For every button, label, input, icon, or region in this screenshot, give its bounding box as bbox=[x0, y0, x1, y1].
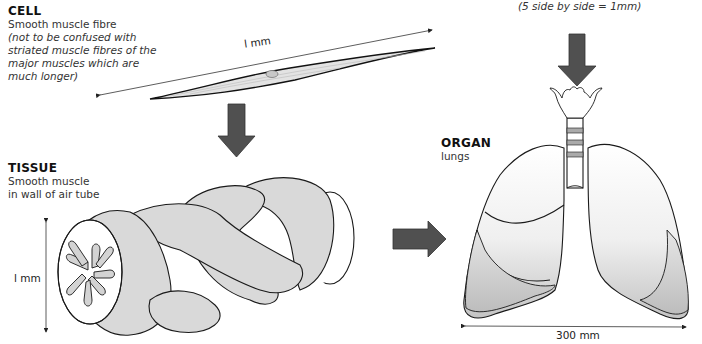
larynx bbox=[550, 87, 602, 118]
cell-note-line-3: major muscles which are bbox=[8, 57, 156, 70]
organ-heading: ORGAN bbox=[441, 137, 491, 150]
lungs-organ bbox=[464, 87, 689, 319]
air-tube-tissue bbox=[58, 178, 354, 336]
tissue-label-block: TISSUE Smooth muscle in wall of air tube bbox=[8, 162, 99, 201]
tissue-heading: TISSUE bbox=[8, 162, 99, 175]
organ-label-block: ORGAN lungs bbox=[441, 137, 491, 163]
arrow-down-to-organ bbox=[558, 34, 596, 86]
arrow-down-cell-to-tissue bbox=[218, 104, 255, 157]
cell-subtitle: Smooth muscle fibre bbox=[8, 18, 156, 31]
tissue-subtitle-line-1: Smooth muscle bbox=[8, 175, 99, 188]
arrow-right-tissue-to-organ bbox=[393, 221, 446, 257]
cell-label-block: CELL Smooth muscle fibre (not to be conf… bbox=[8, 5, 156, 83]
organ-scale-label: 300 mm bbox=[556, 329, 600, 341]
top-note: (5 side by side = 1mm) bbox=[518, 0, 641, 13]
cell-note-line-4: much longer) bbox=[8, 70, 156, 83]
organ-scale-line bbox=[465, 326, 686, 327]
organ-subtitle: lungs bbox=[441, 150, 491, 163]
cell-note-line-1: (not to be confused with bbox=[8, 31, 156, 44]
tissue-subtitle-line-2: in wall of air tube bbox=[8, 188, 99, 201]
trachea-ring bbox=[567, 140, 583, 145]
cell-heading: CELL bbox=[8, 5, 156, 18]
cell-note-line-2: striated muscle fibres of the bbox=[8, 44, 156, 57]
smooth-muscle-cell bbox=[150, 48, 435, 99]
trachea-ring bbox=[567, 128, 583, 133]
trachea-ring bbox=[567, 152, 583, 157]
cell-nucleus bbox=[266, 71, 278, 78]
tissue-scale-label: l mm bbox=[14, 272, 41, 284]
